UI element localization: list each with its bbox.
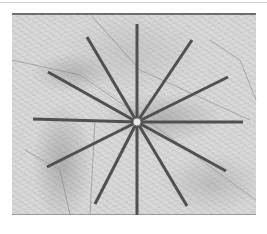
radial-spokes-overlay	[0, 0, 267, 234]
road-line	[210, 40, 256, 100]
spoke-line-w	[33, 119, 137, 122]
spoke-line-ssw	[95, 122, 137, 204]
center-point-marker[interactable]	[133, 118, 141, 126]
road-line	[90, 120, 95, 215]
spoke-line-wsw	[47, 122, 137, 167]
